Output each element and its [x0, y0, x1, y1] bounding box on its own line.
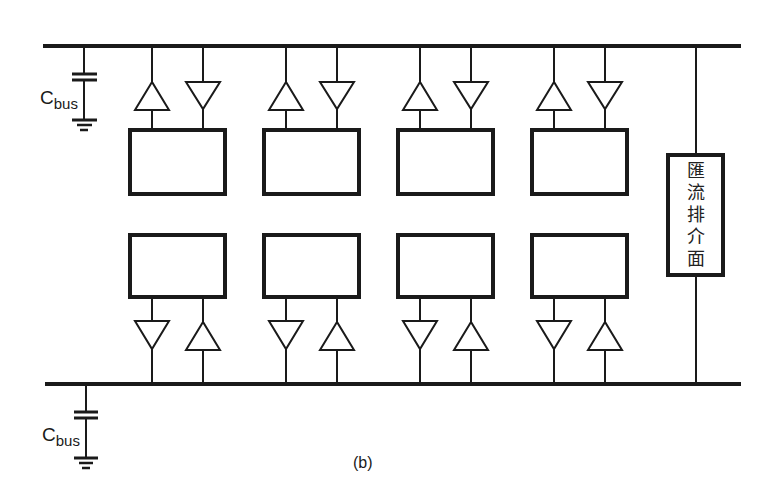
top-unit-2 [264, 46, 359, 194]
bus-diagram [0, 0, 783, 497]
receiver-triangle-up-icon [186, 322, 220, 350]
top-unit-1 [130, 46, 225, 194]
bus-interface-char: 介 [668, 226, 723, 248]
driver-triangle-down-icon [537, 321, 571, 349]
bottom-cbus-label: Cbus [42, 424, 80, 449]
bus-interface-label: 匯 流 排 介 面 [668, 160, 723, 270]
module-block [532, 235, 627, 297]
cbus-main-text: C [42, 424, 56, 445]
receiver-triangle-up-icon [135, 82, 169, 110]
module-block [264, 130, 359, 194]
bus-interface-char: 流 [668, 182, 723, 204]
module-block [398, 235, 493, 297]
module-block [532, 130, 627, 194]
bus-interface-char: 匯 [668, 160, 723, 182]
module-block [130, 235, 225, 297]
top-unit-4 [532, 46, 627, 194]
module-block [130, 130, 225, 194]
module-block [398, 130, 493, 194]
receiver-triangle-up-icon [269, 82, 303, 110]
driver-triangle-down-icon [403, 321, 437, 349]
driver-triangle-down-icon [454, 82, 488, 109]
receiver-triangle-up-icon [588, 322, 622, 350]
bottom-unit-2 [264, 235, 359, 384]
driver-triangle-down-icon [269, 321, 303, 349]
bottom-unit-4 [532, 235, 627, 384]
driver-triangle-down-icon [135, 321, 169, 349]
cbus-sub-text: bus [54, 95, 78, 112]
receiver-triangle-up-icon [454, 322, 488, 350]
module-block [264, 235, 359, 297]
bottom-unit-1 [130, 235, 225, 384]
cbus-main-text: C [40, 87, 54, 108]
top-cbus-label: Cbus [40, 87, 78, 112]
bus-interface-char: 面 [668, 248, 723, 270]
receiver-triangle-up-icon [403, 82, 437, 110]
driver-triangle-down-icon [320, 82, 354, 109]
cbus-sub-text: bus [56, 432, 80, 449]
top-unit-3 [398, 46, 493, 194]
driver-triangle-down-icon [588, 82, 622, 109]
bus-interface-char: 排 [668, 204, 723, 226]
figure-caption: (b) [353, 454, 373, 472]
receiver-triangle-up-icon [320, 322, 354, 350]
driver-triangle-down-icon [186, 82, 220, 109]
receiver-triangle-up-icon [537, 82, 571, 110]
bottom-unit-3 [398, 235, 493, 384]
